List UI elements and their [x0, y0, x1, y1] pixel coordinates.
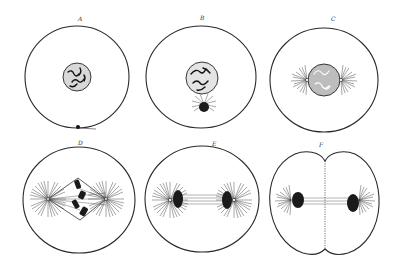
panel-label-e: E [211, 140, 217, 147]
panel-label-d: D [77, 139, 83, 146]
nucleus-c [308, 64, 340, 96]
cell-membrane-d [23, 147, 135, 253]
panel-f: F [270, 141, 379, 254]
chromosomes-d [71, 179, 88, 217]
panel-e: E [145, 140, 259, 252]
panel-d: D [23, 139, 135, 253]
aster-left-c [291, 65, 307, 95]
aster-left-d [30, 181, 66, 217]
aster-right-d [88, 181, 124, 217]
panel-c: C [270, 15, 378, 132]
aster-b [192, 94, 216, 112]
aster-right-f [359, 185, 375, 215]
panel-label-a: A [77, 15, 83, 22]
panel-a: A [25, 15, 129, 129]
panel-label-b: B [199, 14, 205, 21]
mitosis-diagram: A B [0, 0, 396, 265]
spindle-f [296, 198, 354, 204]
cell-membrane-e [145, 146, 259, 252]
panel-label-f: F [318, 141, 324, 148]
panel-label-c: C [331, 15, 336, 22]
spindle-e [176, 195, 228, 204]
nucleus-a [63, 63, 91, 91]
chromosomes-f [292, 192, 359, 212]
aster-left-f [275, 185, 291, 215]
aster-right-c [341, 65, 357, 95]
panel-b: B [146, 14, 256, 128]
